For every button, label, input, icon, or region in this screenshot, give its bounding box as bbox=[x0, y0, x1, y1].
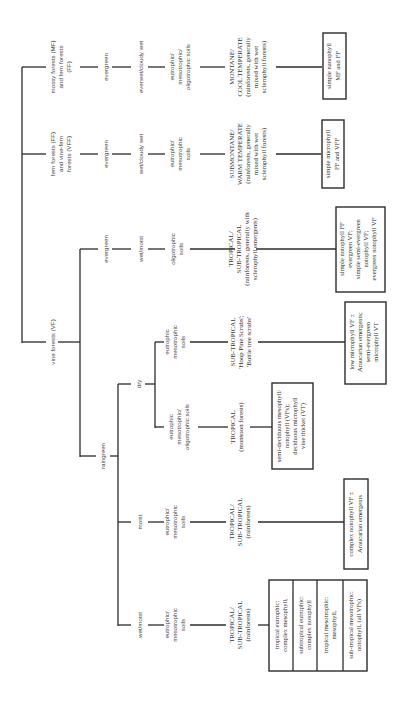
svg-text:evergreen: evergreen bbox=[102, 53, 109, 81]
svg-text:eutrophicmesotrophicsoils: eutrophicmesotrophicsoils bbox=[163, 325, 186, 359]
label-evergreen-moisture: wet/moist bbox=[137, 236, 144, 263]
label-evergreen-climate: TROPICAL/SUB-TROPICAL(rainforests, gener… bbox=[227, 212, 259, 286]
label-mossy-soils: eutrophic/mesotrophic/oligotrophic soils bbox=[168, 44, 191, 90]
label-mossy-phenology: evergreen bbox=[102, 53, 109, 81]
svg-text:eutrophicmesotrophic/oligotrop: eutrophicmesotrophic/oligotrophic soils bbox=[167, 404, 190, 450]
svg-text:TROPICAL/SUB-TROPICAL(rainfore: TROPICAL/SUB-TROPICAL(rainforests) bbox=[228, 601, 252, 650]
svg-text:eutrophic/mesotrophic/oligotro: eutrophic/mesotrophic/oligotrophic soils bbox=[168, 44, 191, 90]
label-vine-raingreen: raingreen bbox=[99, 442, 106, 469]
label-wet-climate: TROPICAL/SUB-TROPICAL(rainforests) bbox=[228, 601, 252, 650]
label-evergreen-soils: oligotrophicsoils bbox=[169, 233, 184, 265]
svg-text:oligotrophicsoils: oligotrophicsoils bbox=[169, 233, 184, 265]
label-vine-forests: vine forests (VF) bbox=[49, 319, 56, 364]
svg-text:TROPICAL/SUB-TROPICAL(rainfore: TROPICAL/SUB-TROPICAL(rainforests) bbox=[228, 498, 252, 547]
svg-text:wet/moist: wet/moist bbox=[137, 236, 144, 263]
label-wet-soils: eutrophic/mesotrophicsoils bbox=[163, 608, 186, 642]
label-mossy-forests: mossy forests (MF)and fern forests(FF) bbox=[49, 41, 72, 94]
label-moist: moist bbox=[136, 514, 143, 529]
label-moist-climate: TROPICAL/SUB-TROPICAL(rainforests) bbox=[228, 498, 252, 547]
svg-text:tropical eutrophic:complex mes: tropical eutrophic:complex mesophyll, bbox=[273, 598, 288, 652]
svg-text:eutrophic/mesotrophicsoils: eutrophic/mesotrophicsoils bbox=[163, 505, 186, 539]
svg-text:SUBMONTANE/WARM TEMPERATE(rain: SUBMONTANE/WARM TEMPERATE(rainforests, g… bbox=[228, 123, 268, 185]
label-vine-evergreen: evergreen bbox=[102, 235, 109, 263]
svg-text:sub-tropical mesotrophic:notop: sub-tropical mesotrophic:notophyll, (all… bbox=[347, 591, 363, 659]
label-fern-soils: eutrophic/mesotrophicsoils bbox=[168, 137, 191, 171]
label-mossy-climate: MONTANE/COOL TEMPERATE(rainforests, gene… bbox=[228, 37, 268, 97]
svg-text:evergreen: evergreen bbox=[102, 235, 109, 263]
label-dry-eutrophic-soils: eutrophicmesotrophicsoils bbox=[163, 325, 186, 359]
svg-text:vine forests (VF): vine forests (VF) bbox=[49, 319, 56, 364]
svg-text:raingreen: raingreen bbox=[99, 442, 106, 469]
label-fern-forests: fern forests (FF)and vine-fernforests (V… bbox=[49, 132, 72, 176]
svg-text:everwet/cloudy wet: everwet/cloudy wet bbox=[137, 40, 144, 93]
svg-text:TROPICAL(monsoon forests): TROPICAL(monsoon forests) bbox=[229, 402, 245, 451]
label-mossy-moisture: everwet/cloudy wet bbox=[137, 40, 144, 93]
label-dry-mixed-soils: eutrophicmesotrophic/oligotrophic soils bbox=[167, 404, 190, 450]
svg-text:SUB-TROPICAL'Hoop Pine Scrubs': SUB-TROPICAL'Hoop Pine Scrubs';'Bottle t… bbox=[229, 315, 252, 369]
svg-text:wet/moist: wet/moist bbox=[136, 612, 143, 639]
svg-text:TROPICAL/SUB-TROPICAL(rainfore: TROPICAL/SUB-TROPICAL(rainforests, gener… bbox=[227, 212, 259, 286]
wet-cell-subtropical-eutrophic: subtropical eutrophic:complex notophyll bbox=[297, 596, 312, 654]
svg-text:mossy forests (MF)and fern for: mossy forests (MF)and fern forests(FF) bbox=[49, 41, 72, 94]
svg-text:dry: dry bbox=[135, 379, 142, 389]
label-dry-eutrophic-climate: SUB-TROPICAL'Hoop Pine Scrubs';'Bottle t… bbox=[229, 315, 252, 369]
svg-text:eutrophic/mesotrophicsoils: eutrophic/mesotrophicsoils bbox=[168, 137, 191, 171]
label-dry: dry bbox=[135, 379, 142, 389]
svg-text:moist: moist bbox=[136, 514, 143, 529]
svg-text:simple notophyll FFevergreen V: simple notophyll FFevergreen VF;simple s… bbox=[338, 217, 377, 280]
svg-text:wet/cloudy wet: wet/cloudy wet bbox=[137, 133, 144, 175]
label-dry-mixed-climate: TROPICAL(monsoon forests) bbox=[229, 402, 245, 451]
svg-text:MONTANE/COOL TEMPERATE(rainfor: MONTANE/COOL TEMPERATE(rainforests, gene… bbox=[228, 37, 268, 97]
label-evergreen-structure: simple notophyll FFevergreen VF;simple s… bbox=[338, 217, 377, 280]
vegetation-classification-tree: mossy forests (MF)and fern forests(FF) e… bbox=[0, 0, 401, 705]
svg-text:fern forests (FF)and vine-fern: fern forests (FF)and vine-fernforests (V… bbox=[49, 132, 72, 176]
label-moist-soils: eutrophic/mesotrophicsoils bbox=[163, 505, 186, 539]
label-fern-climate: SUBMONTANE/WARM TEMPERATE(rainforests, g… bbox=[228, 123, 268, 185]
svg-text:evergreen: evergreen bbox=[102, 140, 109, 168]
label-fern-moisture: wet/cloudy wet bbox=[137, 133, 144, 175]
svg-text:subtropical eutrophic:complex: subtropical eutrophic:complex notophyll bbox=[297, 596, 312, 654]
svg-text:eutrophic/mesotrophicsoils: eutrophic/mesotrophicsoils bbox=[163, 608, 186, 642]
wet-cell-tropical-eutrophic: tropical eutrophic:complex mesophyll, bbox=[273, 598, 288, 652]
label-fern-phenology: evergreen bbox=[102, 140, 109, 168]
wet-cell-subtropical-mesotrophic: sub-tropical mesotrophic:notophyll, (all… bbox=[347, 591, 363, 659]
label-wet-moist: wet/moist bbox=[136, 612, 143, 639]
